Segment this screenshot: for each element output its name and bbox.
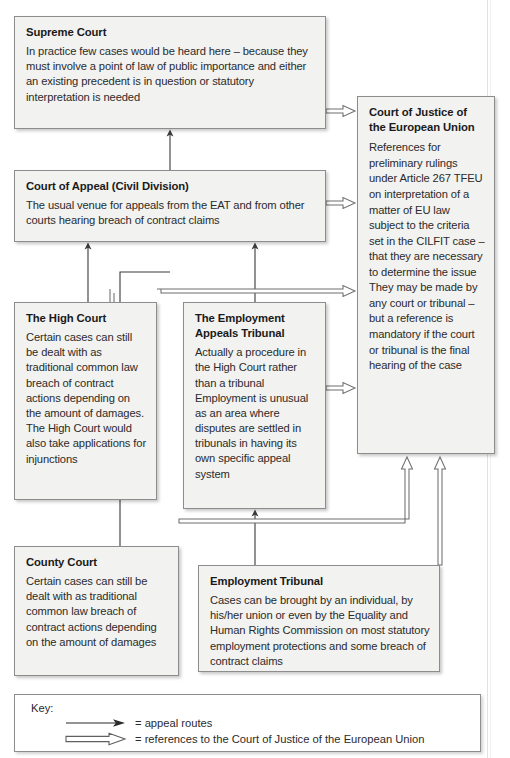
key-entry-cjeu-references-label: = references to the Court of Justice of … xyxy=(135,733,425,745)
node-county-court-body: Certain cases can still be dealt with as… xyxy=(26,574,169,650)
key-entry-cjeu-references: = references to the Court of Justice of … xyxy=(63,731,480,747)
edge-eat-to-cjeu xyxy=(326,383,355,394)
key-entry-appeal-routes-label: = appeal routes xyxy=(135,717,212,729)
edge-highcourt-to-cjeu-head xyxy=(157,286,355,297)
edge-appeal-to-cjeu xyxy=(326,198,355,209)
node-supreme-court-title: Supreme Court xyxy=(26,25,316,40)
node-high-court[interactable]: The High Court Certain cases can still b… xyxy=(14,302,157,500)
node-employment-appeals-tribunal-body: Actually a procedure in the High Court r… xyxy=(195,345,316,482)
node-employment-appeals-tribunal-title: The Employment Appeals Tribunal xyxy=(195,311,316,341)
node-supreme-court[interactable]: Supreme Court In practice few cases woul… xyxy=(14,16,326,129)
node-employment-tribunal-title: Employment Tribunal xyxy=(210,574,430,589)
node-court-of-justice-eu[interactable]: Court of Justice of the European Union R… xyxy=(357,96,495,454)
hollow-arrow-icon xyxy=(63,732,129,746)
node-employment-appeals-tribunal[interactable]: The Employment Appeals Tribunal Actually… xyxy=(183,302,326,509)
edge-supreme-to-cjeu xyxy=(326,106,355,117)
solid-arrow-icon xyxy=(63,716,129,730)
key-entry-appeal-routes: = appeal routes xyxy=(63,715,480,731)
node-court-of-justice-eu-body: References for preliminary rulings under… xyxy=(369,140,485,373)
key-legend: Key: = appeal routes = references to the… xyxy=(14,694,481,752)
node-county-court[interactable]: County Court Certain cases can still be … xyxy=(14,546,179,676)
node-county-court-title: County Court xyxy=(26,555,169,570)
diagram-page: Supreme Court In practice few cases woul… xyxy=(0,0,510,758)
edge-highcourt-to-cjeu-riser xyxy=(110,289,114,302)
node-court-of-appeal-body: The usual venue for appeals from the EAT… xyxy=(26,198,316,228)
edge-emptribunal-to-cjeu xyxy=(435,457,446,565)
node-court-of-justice-eu-title: Court of Justice of the European Union xyxy=(369,105,485,135)
node-high-court-title: The High Court xyxy=(26,311,147,326)
node-supreme-court-body: In practice few cases would be heard her… xyxy=(26,44,316,105)
node-high-court-body: Certain cases can still be dealt with as… xyxy=(26,330,147,467)
key-heading: Key: xyxy=(31,702,480,714)
node-employment-tribunal[interactable]: Employment Tribunal Cases can be brought… xyxy=(198,565,440,672)
node-court-of-appeal[interactable]: Court of Appeal (Civil Division) The usu… xyxy=(14,170,326,242)
node-court-of-appeal-title: Court of Appeal (Civil Division) xyxy=(26,179,316,194)
node-employment-tribunal-body: Cases can be brought by an individual, b… xyxy=(210,593,430,669)
